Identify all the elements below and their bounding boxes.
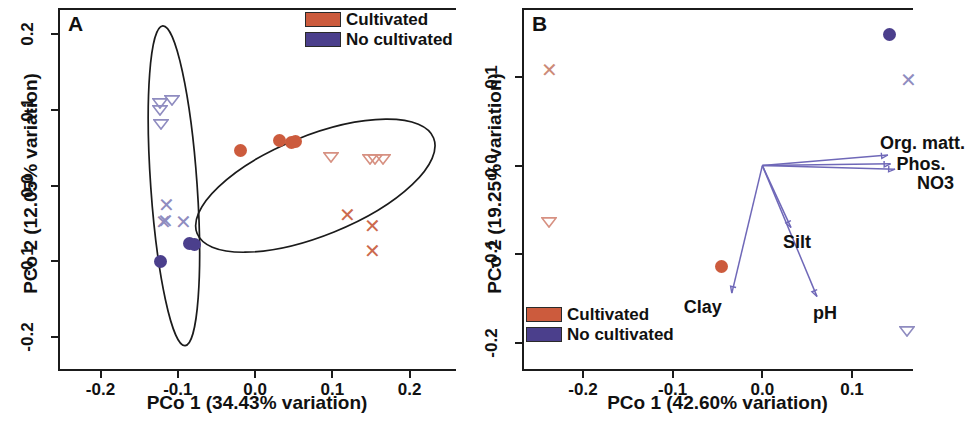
panel-a-legend: CultivatedNo cultivated xyxy=(305,10,453,50)
vector-label: pH xyxy=(813,303,837,324)
x-tick-mark xyxy=(331,371,333,378)
x-tick-mark xyxy=(761,371,763,378)
legend-label: No cultivated xyxy=(346,31,453,48)
panel-b-letter: B xyxy=(532,12,547,36)
panel-a-plot-frame xyxy=(58,8,456,371)
panel-b-legend: CultivatedNo cultivated xyxy=(526,305,674,345)
x-tick-label: 0.0 xyxy=(220,380,290,400)
data-point-circle xyxy=(289,135,302,148)
x-tick-mark xyxy=(177,371,179,378)
y-tick-label: -0.2 xyxy=(482,315,502,371)
data-point-cross: ✕ xyxy=(900,70,918,90)
data-point-circle xyxy=(715,260,728,273)
vector-label: NO3 xyxy=(917,173,954,194)
data-point-cross: ✕ xyxy=(541,60,559,80)
data-point-triangle xyxy=(375,154,391,165)
legend-item: Cultivated xyxy=(526,305,674,324)
data-point-cross: ✕ xyxy=(174,212,192,232)
data-point-triangle xyxy=(323,152,339,163)
x-tick-label: 0.1 xyxy=(297,380,367,400)
x-tick-mark xyxy=(672,371,674,378)
y-tick-mark xyxy=(51,260,58,262)
vector-label: Clay xyxy=(684,297,722,318)
legend-item: Cultivated xyxy=(305,10,453,29)
x-tick-label: 0.1 xyxy=(817,380,887,400)
x-tick-label: -0.2 xyxy=(66,380,136,400)
x-tick-mark xyxy=(582,371,584,378)
x-tick-mark xyxy=(409,371,411,378)
data-point-triangle xyxy=(899,326,915,337)
legend-label: Cultivated xyxy=(346,11,428,28)
x-tick-label: -0.2 xyxy=(548,380,618,400)
panel-a: A PCo 2 (12.05% variation) PCo 1 (34.43%… xyxy=(0,0,460,431)
y-tick-label: 0.0 xyxy=(18,158,38,214)
data-point-circle xyxy=(188,238,201,251)
x-tick-mark xyxy=(851,371,853,378)
legend-label: Cultivated xyxy=(567,306,649,323)
x-tick-label: -0.1 xyxy=(143,380,213,400)
x-tick-label: -0.1 xyxy=(638,380,708,400)
x-tick-mark xyxy=(254,371,256,378)
data-point-cross: ✕ xyxy=(364,216,382,236)
data-point-circle xyxy=(234,144,247,157)
data-point-triangle xyxy=(541,217,557,228)
vector-label: Phos. xyxy=(897,154,946,175)
data-point-triangle xyxy=(153,119,169,130)
y-tick-label: 0.1 xyxy=(18,82,38,138)
legend-swatch xyxy=(305,32,341,47)
x-tick-label: 0.0 xyxy=(727,380,797,400)
y-tick-mark xyxy=(51,109,58,111)
y-tick-label: 0.0 xyxy=(482,138,502,194)
y-tick-label: 0.2 xyxy=(18,6,38,62)
y-tick-label: -0.2 xyxy=(18,309,38,365)
data-point-cross: ✕ xyxy=(339,205,357,225)
y-tick-mark xyxy=(515,253,522,255)
y-tick-mark xyxy=(51,33,58,35)
legend-swatch xyxy=(526,327,562,342)
legend-label: No cultivated xyxy=(567,326,674,343)
legend-item: No cultivated xyxy=(305,30,453,49)
vector-label: Silt xyxy=(783,232,811,253)
x-tick-mark xyxy=(100,371,102,378)
data-point-cross: ✕ xyxy=(364,241,382,261)
y-tick-mark xyxy=(515,342,522,344)
y-tick-label: 0.1 xyxy=(482,49,502,105)
vector-label: Org. matt. xyxy=(880,133,965,154)
legend-swatch xyxy=(305,12,341,27)
data-point-triangle xyxy=(152,105,168,116)
legend-item: No cultivated xyxy=(526,325,674,344)
y-tick-label: -0.1 xyxy=(18,233,38,289)
data-point-cross: ✕ xyxy=(156,211,174,231)
legend-swatch xyxy=(526,307,562,322)
y-tick-label: -0.1 xyxy=(482,226,502,282)
data-point-triangle xyxy=(164,95,180,106)
x-tick-label: 0.2 xyxy=(375,380,445,400)
y-tick-mark xyxy=(515,76,522,78)
y-tick-mark xyxy=(515,165,522,167)
panel-b: B PCo 2 (19.25% variation) PCo 1 (42.60%… xyxy=(460,0,913,431)
y-tick-mark xyxy=(51,336,58,338)
y-tick-mark xyxy=(51,185,58,187)
panel-a-letter: A xyxy=(68,12,83,36)
